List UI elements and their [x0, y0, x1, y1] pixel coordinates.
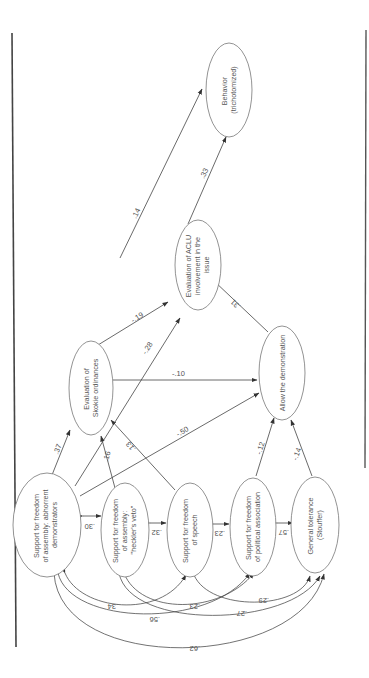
corr-label-abhorrent-tolerance: .62	[190, 644, 200, 653]
corr-label-association-tolerance: .57	[279, 528, 289, 537]
node-tolerance-line2: (Stouffer)	[315, 510, 324, 540]
node-heckler-line3: "heckler's veto"	[129, 505, 138, 554]
corr-heckler-tolerance	[119, 573, 320, 615]
corr-label-abhorrent-speech: .34	[108, 602, 118, 611]
corr-abhorrent-association	[58, 573, 250, 614]
coef-abhorrent-aclu: -.28	[140, 340, 154, 356]
path-diagram: Support for freedom of assembly: abhorre…	[0, 0, 369, 678]
corr-label-heckler-association: .23	[190, 602, 200, 611]
coef-allow-aclu: .31	[229, 297, 243, 311]
node-tolerance-line1: General tolerance	[306, 497, 315, 554]
corr-speech-tolerance	[194, 575, 310, 602]
corr-label-heckler-speech: .32	[152, 528, 162, 537]
corr-abhorrent-speech	[65, 573, 186, 605]
node-allow: Allow the demonstration	[259, 326, 305, 420]
node-behavior-line2: (trichotomized)	[229, 66, 238, 114]
node-heckler: Support for freedom of assembly: "heckle…	[101, 483, 149, 577]
node-allow-line1: Allow the demonstration	[278, 335, 287, 412]
path-speech-skokie	[111, 420, 175, 490]
node-tolerance: General tolerance (Stouffer)	[291, 477, 339, 573]
path-aclu-behavior	[188, 137, 226, 224]
right-border-rule	[365, 30, 366, 468]
node-speech-line2: of speech	[190, 514, 199, 545]
node-association-line2: of political association	[253, 492, 262, 562]
corr-label-speech-tolerance: .29	[259, 596, 269, 605]
node-abhorrent-line2: of assembly: abhorrent	[41, 489, 50, 562]
svg-text:Support for freedom of p: Support for freedom of political associa…	[244, 492, 262, 562]
coef-skokie-allow: -.10	[172, 369, 185, 378]
coef-heckler-skokie: .16	[101, 450, 112, 462]
corr-label-speech-association: .23	[215, 529, 225, 538]
node-aclu-line1: Evaluation of ACLU	[184, 235, 193, 297]
node-heckler-line1: Support for freedom	[111, 499, 120, 563]
node-speech-line1: Support for freedom	[181, 499, 190, 563]
corr-label-heckler-tolerance: .27	[237, 609, 247, 618]
coef-skokie-aclu: -.19	[129, 310, 145, 324]
node-aclu-line3: issue	[202, 257, 211, 274]
svg-text:Allow the demonstration: Allow the demonstration	[278, 335, 287, 412]
coef-skokie-behavior: .14	[130, 207, 143, 220]
node-heckler-line2: of assembly:	[120, 511, 129, 551]
node-behavior: Behavior (trichotomized)	[206, 43, 252, 137]
node-behavior-line1: Behavior	[220, 76, 229, 105]
node-abhorrent: Support for freedom of assembly: abhorre…	[13, 473, 81, 577]
node-abhorrent-line3: demonstrators	[50, 502, 59, 548]
coef-speech-skokie: .13	[124, 440, 138, 454]
corr-label-abhorrent-association: .56	[150, 615, 160, 624]
coef-abhorrent-skokie: .37	[51, 443, 63, 456]
node-skokie-line2: Skokie ordinances	[91, 358, 100, 417]
node-skokie-line1: Evaluation of	[82, 368, 91, 410]
node-abhorrent-line1: Support for freedom	[32, 494, 41, 558]
svg-text:Evaluation of Skokie ord: Evaluation of Skokie ordinances	[82, 358, 100, 417]
node-association-line1: Support for freedom	[244, 496, 253, 560]
node-aclu: Evaluation of ACLU involvement in the is…	[175, 220, 221, 310]
coef-association-allow: -.12	[254, 441, 266, 456]
node-skokie: Evaluation of Skokie ordinances	[69, 341, 113, 435]
node-speech: Support for freedom of speech	[167, 483, 213, 577]
node-association: Support for freedom of political associa…	[230, 478, 276, 576]
node-aclu-line2: involvement in the	[193, 237, 202, 295]
corr-label-abhorrent-heckler: .30	[85, 522, 95, 531]
left-border-rule	[12, 33, 16, 647]
corr-abhorrent-tolerance	[54, 573, 324, 648]
coef-abhorrent-allow: -.50	[175, 424, 191, 438]
